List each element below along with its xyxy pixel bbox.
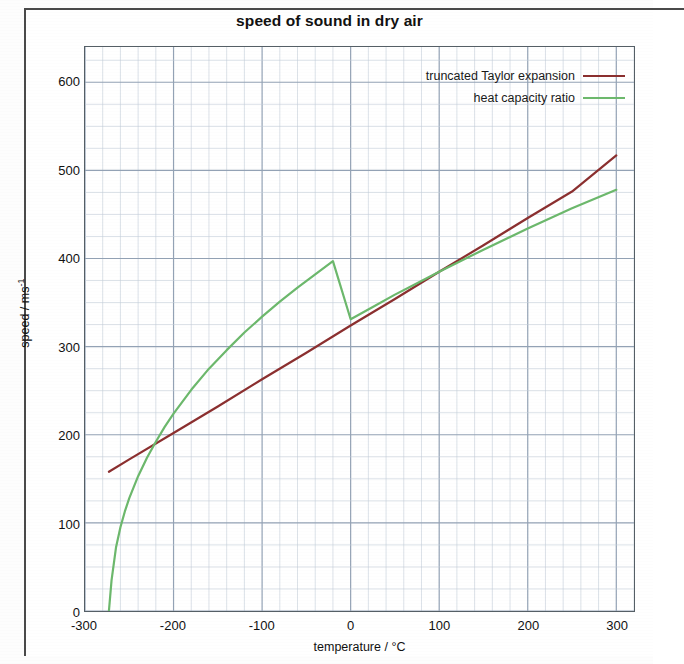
legend-swatch-heat-capacity-ratio <box>583 97 625 99</box>
data-series-lines <box>85 47 634 611</box>
legend-label-truncated-taylor-expansion: truncated Taylor expansion <box>426 70 575 83</box>
series-line-heat-capacity-ratio <box>109 190 616 611</box>
x-axis-tick-labels: -300-200-1000100200300 <box>84 618 635 638</box>
y-tick-label: 400 <box>34 251 80 266</box>
y-axis-title: speed / ms-1 <box>16 243 32 383</box>
y-tick-label: 300 <box>34 339 80 354</box>
legend-label-heat-capacity-ratio: heat capacity ratio <box>474 92 575 105</box>
x-tick-label: -300 <box>54 618 114 633</box>
legend-item-truncated-taylor-expansion: truncated Taylor expansion <box>335 65 625 87</box>
x-tick-label: 200 <box>498 618 558 633</box>
y-tick-label: 100 <box>34 516 80 531</box>
y-tick-label: 200 <box>34 428 80 443</box>
x-tick-label: 100 <box>409 618 469 633</box>
x-axis-title: temperature / °C <box>84 640 635 654</box>
x-axis-title-text: temperature / °C <box>314 640 406 654</box>
legend: truncated Taylor expansion heat capacity… <box>335 65 625 109</box>
y-axis-tick-labels: 0100200300400500600 <box>30 46 80 612</box>
chart-title: speed of sound in dry air <box>24 12 635 30</box>
x-tick-label: 300 <box>587 618 647 633</box>
y-tick-label: 600 <box>34 74 80 89</box>
x-tick-label: -200 <box>143 618 203 633</box>
legend-item-heat-capacity-ratio: heat capacity ratio <box>335 87 625 109</box>
legend-swatch-truncated-taylor-expansion <box>583 75 625 77</box>
x-tick-label: 0 <box>321 618 381 633</box>
y-tick-label: 500 <box>34 162 80 177</box>
y-axis-title-text: speed / ms <box>18 287 32 348</box>
plot-area: truncated Taylor expansion heat capacity… <box>84 46 635 612</box>
x-tick-label: -100 <box>232 618 292 633</box>
y-axis-title-exponent: -1 <box>16 279 26 287</box>
